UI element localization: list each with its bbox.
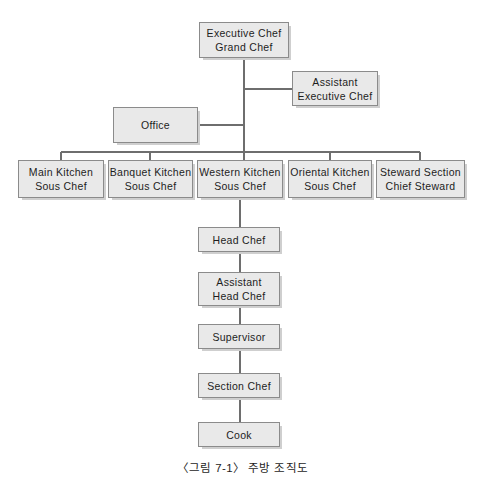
node-banquet-kitchen[interactable]: Banquet Kitchen Sous Chef xyxy=(108,160,193,198)
node-label-line1: Main Kitchen xyxy=(29,165,93,179)
node-supervisor[interactable]: Supervisor xyxy=(198,324,280,349)
node-label-line1: Cook xyxy=(226,428,252,442)
node-executive-chef[interactable]: Executive Chef Grand Chef xyxy=(199,22,289,58)
node-label-line2: Chief Steward xyxy=(386,179,456,193)
node-label-line2: Sous Chef xyxy=(125,179,177,193)
node-label-line1: Steward Section xyxy=(380,165,461,179)
node-label-line2: Grand Chef xyxy=(215,40,272,54)
node-label-line1: Banquet Kitchen xyxy=(110,165,192,179)
node-oriental-kitchen[interactable]: Oriental Kitchen Sous Chef xyxy=(288,160,372,198)
node-label-line1: Office xyxy=(141,118,170,132)
figure-caption: 〈그림 7-1〉 주방 조직도 xyxy=(0,461,486,476)
kitchen-org-chart: Executive Chef Grand Chef Assistant Exec… xyxy=(0,0,486,493)
node-label-line1: Section Chef xyxy=(207,379,271,393)
node-steward-section[interactable]: Steward Section Chief Steward xyxy=(376,160,465,198)
node-assistant-executive-chef[interactable]: Assistant Executive Chef xyxy=(292,71,378,106)
node-label-line1: Assistant xyxy=(216,275,261,289)
node-label-line1: Oriental Kitchen xyxy=(290,165,370,179)
node-label-line1: Head Chef xyxy=(213,233,266,247)
node-main-kitchen[interactable]: Main Kitchen Sous Chef xyxy=(18,160,104,198)
node-label-line2: Head Chef xyxy=(213,289,266,303)
node-western-kitchen[interactable]: Western Kitchen Sous Chef xyxy=(197,160,283,198)
node-cook[interactable]: Cook xyxy=(198,422,280,447)
node-label-line2: Sous Chef xyxy=(214,179,266,193)
node-label-line1: Assistant xyxy=(312,75,357,89)
node-label-line2: Sous Chef xyxy=(35,179,87,193)
node-label-line1: Supervisor xyxy=(212,330,265,344)
node-section-chef[interactable]: Section Chef xyxy=(198,373,280,398)
node-office[interactable]: Office xyxy=(113,107,198,143)
node-label-line1: Western Kitchen xyxy=(199,165,280,179)
node-label-line2: Sous Chef xyxy=(304,179,356,193)
node-label-line2: Executive Chef xyxy=(298,89,373,103)
node-label-line1: Executive Chef xyxy=(207,26,282,40)
node-head-chef[interactable]: Head Chef xyxy=(198,227,280,252)
node-assistant-head-chef[interactable]: Assistant Head Chef xyxy=(198,272,280,306)
